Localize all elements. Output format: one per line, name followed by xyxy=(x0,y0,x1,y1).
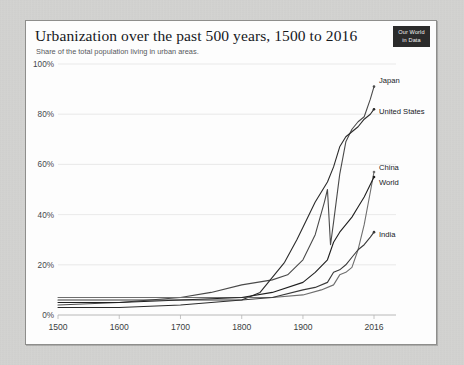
y-axis-tick-label: 20% xyxy=(38,261,54,270)
series-endpoint-marker xyxy=(373,108,376,111)
line-chart: 0%20%40%60%80%100%1500160017001800190020… xyxy=(26,21,437,345)
y-axis-tick-label: 40% xyxy=(38,211,54,220)
series-line-united-states xyxy=(58,109,374,307)
x-axis-tick-label: 1700 xyxy=(171,322,190,332)
series-label-india: India xyxy=(379,230,396,239)
y-axis-tick-label: 80% xyxy=(38,110,54,119)
series-label-japan: Japan xyxy=(379,76,400,85)
x-axis-tick-label: 1500 xyxy=(48,322,67,332)
series-endpoint-marker xyxy=(373,85,376,88)
y-axis-tick-label: 0% xyxy=(42,311,54,320)
x-axis-tick-label: 1900 xyxy=(293,322,312,332)
series-endpoint-marker xyxy=(373,171,376,174)
series-label-china: China xyxy=(379,163,400,172)
x-axis-tick-label: 2016 xyxy=(364,322,383,332)
chart-card: Urbanization over the past 500 years, 15… xyxy=(25,20,437,345)
series-line-world xyxy=(58,177,374,303)
series-label-world: World xyxy=(379,178,399,187)
series-endpoint-marker xyxy=(373,231,376,234)
y-axis-tick-label: 100% xyxy=(33,60,54,69)
x-axis-tick-label: 1800 xyxy=(232,322,251,332)
y-axis-tick-label: 60% xyxy=(38,160,54,169)
series-line-japan xyxy=(58,87,374,305)
x-axis-tick-label: 1600 xyxy=(110,322,129,332)
series-label-united-states: United States xyxy=(379,107,425,116)
series-endpoint-marker xyxy=(373,176,376,179)
series-line-india xyxy=(58,232,374,300)
